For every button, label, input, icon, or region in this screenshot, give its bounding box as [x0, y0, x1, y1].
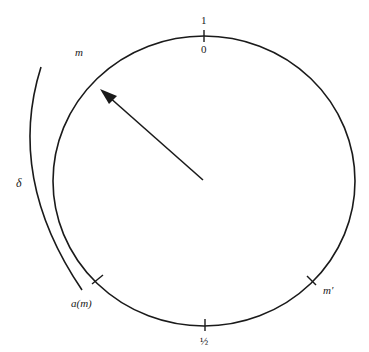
label-a-of-m: a(m): [71, 298, 92, 309]
label-delta: δ: [16, 177, 22, 189]
label-bottom-half: ½: [200, 336, 208, 347]
label-top-outer-1: 1: [201, 15, 207, 26]
label-m-prime: m′: [323, 285, 333, 296]
pointer-arrow-shaft: [108, 96, 203, 180]
label-m: m: [75, 47, 83, 58]
main-circle: [53, 36, 355, 326]
label-top-inner-0: 0: [201, 44, 207, 55]
circle-diagram: [0, 0, 369, 352]
